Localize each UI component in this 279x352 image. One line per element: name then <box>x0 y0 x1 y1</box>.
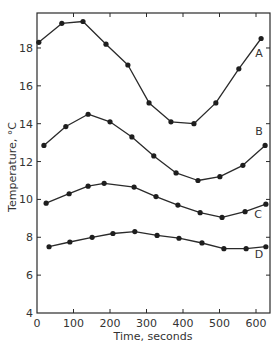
series-c <box>44 181 269 220</box>
y-tick-label: 18 <box>19 42 33 55</box>
data-point-marker <box>36 40 41 45</box>
data-point-marker <box>63 124 68 129</box>
data-point-marker <box>221 246 226 251</box>
axis-ticks: 01002003004005006004681012141618 <box>19 13 270 330</box>
x-tick-label: 500 <box>209 317 230 330</box>
data-point-marker <box>168 119 173 124</box>
series-label-b: B <box>255 125 263 138</box>
data-point-marker <box>86 112 91 117</box>
data-point-marker <box>259 36 264 41</box>
series-line <box>44 114 265 180</box>
data-point-marker <box>103 42 108 47</box>
data-series <box>36 19 268 251</box>
data-point-marker <box>175 202 180 207</box>
series-label-c: C <box>254 208 262 221</box>
data-point-marker <box>199 240 204 245</box>
y-tick-label: 6 <box>26 269 33 282</box>
x-tick-label: 400 <box>173 317 194 330</box>
data-point-marker <box>219 215 224 220</box>
data-point-marker <box>213 100 218 105</box>
data-point-marker <box>153 194 158 199</box>
series-line <box>46 183 266 217</box>
data-point-marker <box>131 185 136 190</box>
plot-frame <box>37 13 270 313</box>
series-d <box>46 229 268 251</box>
data-point-marker <box>151 153 156 158</box>
data-point-marker <box>125 62 130 67</box>
data-point-marker <box>132 229 137 234</box>
data-point-marker <box>67 239 72 244</box>
data-point-marker <box>44 201 49 206</box>
series-line <box>39 22 261 124</box>
data-point-marker <box>46 244 51 249</box>
x-tick-label: 300 <box>136 317 157 330</box>
x-tick-label: 600 <box>246 317 267 330</box>
series-label-d: D <box>255 248 263 261</box>
data-point-marker <box>263 202 268 207</box>
data-point-marker <box>263 244 268 249</box>
data-point-marker <box>191 121 196 126</box>
x-axis-label: Time, seconds <box>113 330 193 343</box>
data-point-marker <box>195 178 200 183</box>
x-tick-label: 0 <box>34 317 41 330</box>
data-point-marker <box>236 66 241 71</box>
data-point-marker <box>67 191 72 196</box>
data-point-marker <box>41 143 46 148</box>
data-point-marker <box>110 231 115 236</box>
data-point-marker <box>240 163 245 168</box>
series-a <box>36 19 263 126</box>
y-axis-label: Temperature, °C <box>6 122 19 213</box>
data-point-marker <box>242 209 247 214</box>
data-point-marker <box>173 170 178 175</box>
plot-border <box>37 13 270 313</box>
data-point-marker <box>86 184 91 189</box>
temperature-time-chart: 01002003004005006004681012141618 ABCD Ti… <box>0 0 279 352</box>
y-tick-label: 8 <box>26 231 33 244</box>
data-point-marker <box>154 233 159 238</box>
y-tick-label: 10 <box>19 193 33 206</box>
series-label-a: A <box>255 47 263 60</box>
data-point-marker <box>217 174 222 179</box>
data-point-marker <box>107 119 112 124</box>
x-tick-label: 200 <box>100 317 121 330</box>
data-point-marker <box>80 19 85 24</box>
x-tick-label: 100 <box>63 317 84 330</box>
y-tick-label: 16 <box>19 80 33 93</box>
data-point-marker <box>198 210 203 215</box>
y-tick-label: 4 <box>26 307 33 320</box>
data-point-marker <box>59 21 64 26</box>
data-point-marker <box>129 134 134 139</box>
data-point-marker <box>244 246 249 251</box>
y-tick-label: 14 <box>19 118 33 131</box>
data-point-marker <box>176 236 181 241</box>
series-b <box>41 112 267 183</box>
data-point-marker <box>146 100 151 105</box>
data-point-marker <box>263 143 268 148</box>
data-point-marker <box>90 235 95 240</box>
y-tick-label: 12 <box>19 156 33 169</box>
data-point-marker <box>102 181 107 186</box>
